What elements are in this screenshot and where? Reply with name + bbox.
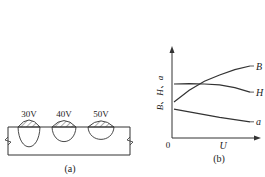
origin-label: 0 <box>166 140 171 150</box>
workpiece-outline <box>8 127 130 155</box>
series-label-H: H <box>255 87 264 98</box>
bead-penetration <box>52 127 76 142</box>
panel-b: 0 U B、H、a BHa (b) <box>155 46 264 165</box>
bead-penetration <box>88 127 114 139</box>
voltage-label: 40V <box>56 109 72 119</box>
x-axis-arrow <box>254 136 261 141</box>
series-label-a: a <box>256 116 261 127</box>
voltage-label: 30V <box>21 109 37 119</box>
bead-reinforcement <box>88 121 114 127</box>
voltage-label: 50V <box>93 109 109 119</box>
weld-bead: 40V <box>52 109 76 142</box>
series-label-B: B <box>256 61 262 72</box>
bead-reinforcement <box>52 121 76 127</box>
y-axis-arrow <box>170 46 175 53</box>
weld-bead: 30V <box>18 109 40 147</box>
panel-a: 30V40V50V (a) <box>5 109 133 175</box>
bead-penetration <box>18 127 40 147</box>
panel-b-caption: (b) <box>213 153 225 165</box>
figure: 30V40V50V (a) 0 U B、H、a BHa (b) <box>0 0 265 177</box>
bead-reinforcement <box>18 120 40 127</box>
panel-a-caption: (a) <box>64 163 75 175</box>
series-line-H <box>174 84 250 93</box>
y-axis-label: B、H、a <box>155 75 165 110</box>
weld-bead: 50V <box>88 109 114 139</box>
series-line-a <box>174 109 250 122</box>
x-axis-label: U <box>219 140 227 151</box>
